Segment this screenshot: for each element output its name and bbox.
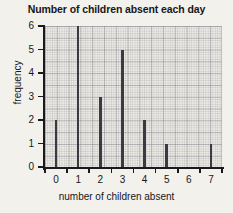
y-axis-tick (38, 143, 43, 145)
x-axis-tick (199, 168, 201, 173)
x-axis-tick-label: 0 (45, 175, 67, 185)
bar (121, 50, 124, 168)
x-axis-tick (66, 168, 68, 173)
y-axis-line (43, 25, 45, 170)
x-axis-tick (221, 168, 223, 173)
y-axis-tick-label: 0 (10, 162, 34, 172)
x-axis-tick-label: 2 (89, 175, 111, 185)
bar (99, 97, 102, 168)
frequency-bar-chart: Number of children absent each day 01234… (0, 0, 233, 213)
x-axis-tick-label: 3 (111, 175, 133, 185)
x-axis-tick-label: 7 (200, 175, 222, 185)
bar (77, 26, 80, 167)
x-axis-tick (88, 168, 90, 173)
y-axis-tick (38, 25, 43, 27)
x-axis-tick (133, 168, 135, 173)
x-axis-tick (155, 168, 157, 173)
x-axis-tick (177, 168, 179, 173)
y-axis-title: frequency (12, 23, 23, 143)
y-axis-tick (38, 49, 43, 51)
x-axis-tick-label: 4 (134, 175, 156, 185)
x-axis-tick (44, 168, 46, 173)
x-axis-tick-label: 6 (178, 175, 200, 185)
bar (165, 144, 168, 168)
plot-area-border (45, 26, 222, 168)
y-axis-tick (38, 72, 43, 74)
bar (210, 144, 213, 168)
bar (143, 120, 146, 167)
y-axis-tick (38, 166, 43, 168)
chart-title: Number of children absent each day (0, 3, 233, 15)
x-axis-title: number of children absent (0, 191, 233, 202)
x-axis-tick-label: 1 (67, 175, 89, 185)
y-axis-tick (38, 96, 43, 98)
bar (55, 120, 58, 167)
plot-area (45, 26, 222, 168)
x-axis-tick-label: 5 (156, 175, 178, 185)
y-axis-tick (38, 119, 43, 121)
x-axis-tick (111, 168, 113, 173)
